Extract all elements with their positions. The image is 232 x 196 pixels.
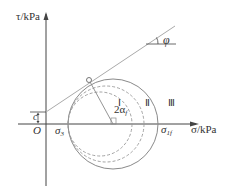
- sigma1f-label: σ1f: [161, 123, 173, 137]
- tau-axis-label: τ/kPa: [16, 10, 40, 22]
- sigma-axis: [18, 122, 199, 127]
- tangent-point: [87, 78, 92, 83]
- tau-axis-arrow-icon: [44, 12, 49, 20]
- phi-label: φ: [163, 33, 170, 47]
- circle-III-label: Ⅲ: [168, 97, 175, 108]
- cohesion-label: c: [33, 111, 38, 122]
- circle-I-label: Ⅰ: [118, 97, 121, 108]
- sigma-axis-label: σ/kPa: [191, 123, 217, 135]
- circle-II-label: Ⅱ: [145, 97, 150, 108]
- mohr-diagram: τ/kPa c O σ3 σ1f σ/kPa φ 2αf Ⅰ Ⅱ Ⅲ: [0, 0, 232, 196]
- phi-angle-marker: [146, 38, 176, 45]
- tau-axis: [44, 12, 49, 186]
- origin-label: O: [33, 124, 41, 136]
- failure-envelope: [46, 26, 175, 112]
- sigma3-label: σ3: [55, 124, 64, 138]
